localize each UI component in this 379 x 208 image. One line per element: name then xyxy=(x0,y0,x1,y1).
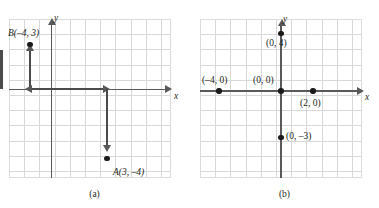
y-axis-label-b: y xyxy=(283,15,287,25)
y-axis-a xyxy=(51,24,53,178)
point-0-4 xyxy=(278,31,283,36)
path-arrow-left xyxy=(25,85,32,93)
caption-b: (b) xyxy=(190,190,379,200)
point-0-neg3-label: (0, –3) xyxy=(286,132,311,142)
point-2-0-label: (2, 0) xyxy=(300,99,321,109)
point-0-neg3 xyxy=(278,135,283,140)
x-axis-arrow-a xyxy=(165,85,172,93)
point-neg4-0 xyxy=(216,88,221,93)
point-b xyxy=(27,42,32,47)
point-0-0-label: (0, 0) xyxy=(253,76,274,86)
point-a-label: A(3, –4) xyxy=(113,168,144,178)
point-0-0 xyxy=(278,88,283,93)
point-neg4-0-label: (–4, 0) xyxy=(202,76,227,86)
grid-border-a xyxy=(9,19,171,178)
y-axis-label-a: y xyxy=(54,14,58,24)
x-axis-label-a: x xyxy=(174,92,178,102)
x-axis-arrow-b xyxy=(357,87,364,95)
x-axis-label-b: x xyxy=(365,93,369,103)
path-segment-horizontal xyxy=(29,88,108,91)
point-2-0 xyxy=(310,88,315,93)
path-segment-b-down xyxy=(0,50,3,89)
point-a xyxy=(104,156,109,161)
coordinate-figure: x y [data-name="path-segment-b-down"]{le… xyxy=(0,0,379,208)
point-0-4-label: (0, 4) xyxy=(266,39,287,49)
panel-a: x y [data-name="path-segment-b-down"]{le… xyxy=(0,0,189,208)
path-arrow-down xyxy=(103,145,111,152)
caption-a: (a) xyxy=(0,190,189,200)
point-b-label: B(–4, 3) xyxy=(8,29,39,39)
path-segment-right-vertical xyxy=(106,88,109,147)
panel-b: x y (–4, 0) (0, 0) (2, 0) (0, 4) (0, –3)… xyxy=(190,0,379,208)
path-segment-left-vertical xyxy=(29,50,32,89)
